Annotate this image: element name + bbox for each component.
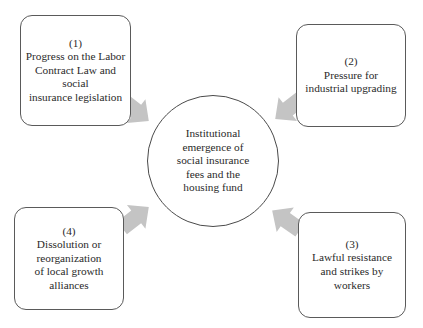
factor-3-line-3: workers [312,279,392,293]
factor-1-line-2: Contract Law and social [21,64,130,91]
center-outcome-circle: Institutional emergence of social insura… [147,95,279,227]
factor-1-number: (1) [21,37,130,51]
factor-box-4: (4) Dissolution or reorganization of loc… [14,207,124,310]
factor-4-line-1: Dissolution or [34,238,103,252]
factor-2-line-1: Pressure for [305,69,396,83]
factor-4-line-3: of local growth [34,265,103,279]
center-line-3: social insurance [177,154,249,168]
factor-2-number: (2) [305,55,396,69]
factor-box-1: (1) Progress on the Labor Contract Law a… [20,15,131,126]
factor-1-line-1: Progress on the Labor [21,50,130,64]
factor-1-line-3: insurance legislation [21,91,130,105]
factor-4-number: (4) [34,225,103,239]
factor-box-3: (3) Lawful resistance and strikes by wor… [298,212,406,318]
center-line-5: housing fund [177,181,249,195]
factor-4-line-2: reorganization [34,252,103,266]
factor-3-number: (3) [312,238,392,252]
factor-3-line-1: Lawful resistance [312,251,392,265]
center-line-2: emergence of [177,141,249,155]
factor-box-2: (2) Pressure for industrial upgrading [296,24,406,127]
center-line-1: Institutional [177,127,249,141]
factor-2-line-2: industrial upgrading [305,82,396,96]
center-line-4: fees and the [177,168,249,182]
factor-4-line-4: alliances [34,279,103,293]
factor-3-line-2: and strikes by [312,265,392,279]
